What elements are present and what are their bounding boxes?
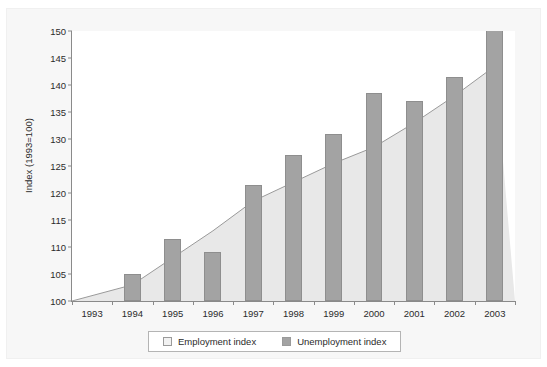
bar-2001 (406, 101, 423, 301)
x-axis-tick-label: 2001 (404, 308, 425, 319)
x-axis-tick-mark (153, 301, 154, 305)
x-axis-tick-mark (354, 301, 355, 305)
plot-inner (72, 31, 515, 301)
x-axis-tick-label: 1998 (283, 308, 304, 319)
bar-1998 (285, 155, 302, 301)
chart-legend: Employment index Unemployment index (148, 331, 401, 352)
x-axis-tick-mark (193, 301, 194, 305)
y-axis-tick-label: 130 (50, 134, 66, 145)
legend-item-unemployment: Unemployment index (282, 336, 386, 347)
cropped-caption (60, 0, 360, 5)
x-axis-tick-mark (112, 301, 113, 305)
x-axis-tick-label: 1996 (202, 308, 223, 319)
bar-2002 (446, 77, 463, 301)
y-axis-tick-label: 140 (50, 80, 66, 91)
x-axis-tick-label: 2000 (363, 308, 384, 319)
x-axis-tick-mark (394, 301, 395, 305)
y-axis-tick-mark (68, 166, 72, 167)
y-axis-tick-mark (68, 247, 72, 248)
y-axis-tick-mark (68, 112, 72, 113)
y-axis-tick-label: 135 (50, 107, 66, 118)
y-axis-tick-mark (68, 193, 72, 194)
unemployment-swatch-icon (282, 337, 291, 346)
y-axis-tick-label: 150 (50, 26, 66, 37)
x-axis-tick-label: 1997 (243, 308, 264, 319)
y-axis-tick-mark (68, 85, 72, 86)
bar-1999 (325, 134, 342, 301)
x-axis-tick-mark (233, 301, 234, 305)
employment-swatch-icon (163, 337, 172, 346)
bar-2003 (486, 31, 503, 301)
y-axis-tick-label: 100 (50, 296, 66, 307)
x-axis-tick-label: 1995 (162, 308, 183, 319)
y-axis-tick-mark (68, 220, 72, 221)
y-axis-tick-label: 110 (51, 242, 66, 253)
y-axis-tick-label: 105 (50, 269, 66, 280)
y-axis-tick-label: 145 (50, 53, 66, 64)
legend-label-employment: Employment index (178, 336, 256, 347)
bar-1994 (124, 274, 141, 301)
x-axis-tick-mark (434, 301, 435, 305)
plot-area: 1001051101151201251301351401451501993199… (71, 31, 515, 302)
x-axis-tick-mark (72, 301, 73, 305)
x-axis-tick-label: 1994 (122, 308, 143, 319)
y-axis-title: Index (1993=100) (23, 81, 34, 231)
y-axis-tick-label: 120 (50, 188, 66, 199)
bar-1997 (245, 185, 262, 301)
chart-figure: Index (1993=100) 10010511011512012513013… (0, 0, 547, 367)
x-axis-tick-mark (475, 301, 476, 305)
legend-item-employment: Employment index (163, 336, 256, 347)
bar-1996 (204, 252, 221, 301)
y-axis-tick-mark (68, 274, 72, 275)
x-axis-tick-label: 2002 (444, 308, 465, 319)
y-axis-tick-mark (68, 58, 72, 59)
bar-2000 (366, 93, 383, 301)
y-axis-tick-mark (68, 139, 72, 140)
y-axis-tick-label: 125 (50, 161, 66, 172)
y-axis-tick-label: 115 (51, 215, 66, 226)
x-axis-tick-label: 1993 (82, 308, 103, 319)
legend-label-unemployment: Unemployment index (297, 336, 386, 347)
bar-1995 (164, 239, 181, 301)
x-axis-tick-mark (314, 301, 315, 305)
x-axis-tick-mark (273, 301, 274, 305)
x-axis-tick-label: 2003 (484, 308, 505, 319)
x-axis-tick-mark (515, 301, 516, 305)
y-axis-tick-mark (68, 31, 72, 32)
x-axis-tick-label: 1999 (323, 308, 344, 319)
